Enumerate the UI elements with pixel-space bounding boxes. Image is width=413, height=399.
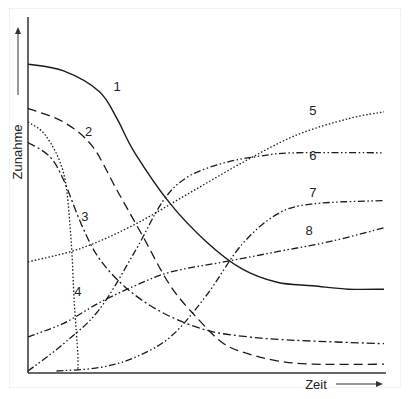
curve-label-5: 5 [309,103,316,118]
curve-2 [28,108,384,364]
curve-label-4: 4 [74,284,81,299]
y-axis-label: Zunahme [10,125,25,180]
curve-label-1: 1 [113,79,120,94]
y-axis-arrow-icon [15,27,21,34]
curve-6 [28,153,384,371]
curve-label-7: 7 [309,185,316,200]
curve-label-2: 2 [85,124,92,139]
curve-7 [57,201,385,372]
curve-label-8: 8 [306,223,313,238]
x-axis-arrow-icon [376,381,383,387]
curve-label-3: 3 [81,209,88,224]
curve-1 [28,64,384,289]
curve-8 [28,228,384,337]
diagram-canvas: Zunahme Zeit 12345678 [0,0,413,399]
curve-4 [28,122,78,371]
x-axis-label: Zeit [305,377,327,392]
curve-label-6: 6 [309,148,316,163]
